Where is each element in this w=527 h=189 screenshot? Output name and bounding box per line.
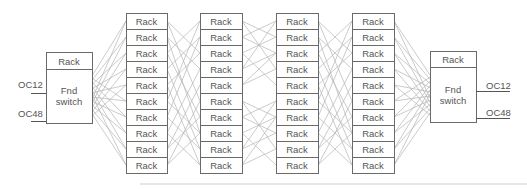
left-switch: RackFndswitchOC12OC48 — [18, 53, 93, 124]
link-rack-to-rack — [167, 69, 200, 149]
link-rack-to-right-switch — [394, 113, 430, 165]
link-left-switch-to-rack — [92, 69, 126, 89]
port-oc48: OC48 — [18, 108, 46, 122]
link-rack-to-rack — [318, 85, 352, 165]
rack-label: Rack — [136, 64, 158, 75]
rack-cell: Rack — [127, 126, 168, 142]
link-rack-to-rack — [318, 69, 352, 149]
rack-cell: Rack — [277, 158, 319, 174]
link-rack-to-right-switch — [394, 21, 430, 98]
link-rack-to-rack — [318, 53, 352, 117]
rack-cell: Rack — [277, 30, 319, 46]
rack-cell: Rack — [201, 46, 243, 62]
link-left-switch-to-rack — [92, 37, 126, 103]
rack-cell: Rack — [353, 62, 395, 78]
rack-label: Rack — [286, 32, 308, 43]
port-label: OC12 — [486, 80, 511, 91]
rack-label: Rack — [210, 160, 232, 171]
switch-name-line1: Fnd — [445, 84, 461, 95]
rack-label: Rack — [286, 80, 308, 91]
rack-cell: Rack — [353, 14, 395, 30]
link-left-switch-to-rack — [92, 85, 126, 93]
link-rack-to-rack — [242, 53, 276, 69]
rack-cell: Rack — [127, 158, 168, 174]
rack-cell: Rack — [353, 78, 395, 94]
rack-cell: Rack — [353, 94, 395, 110]
port-label: OC12 — [18, 79, 43, 90]
rack-cell: Rack — [353, 46, 395, 62]
rack-column-3: RackRackRackRackRackRackRackRackRackRack — [277, 14, 319, 174]
rack-label: Rack — [210, 96, 232, 107]
rack-label: Rack — [136, 96, 158, 107]
port-oc48: OC48 — [476, 107, 511, 119]
rack-label: Rack — [136, 144, 158, 155]
switch-header-rack-label: Rack — [58, 56, 80, 67]
rack-label: Rack — [362, 16, 384, 27]
rack-label: Rack — [210, 48, 232, 59]
rack-label: Rack — [210, 32, 232, 43]
rack-label: Rack — [136, 128, 158, 139]
link-left-switch-to-rack — [92, 114, 126, 165]
rack-cell: Rack — [201, 62, 243, 78]
rack-label: Rack — [210, 16, 232, 27]
port-oc12: OC12 — [476, 80, 511, 92]
link-rack-to-rack — [167, 85, 200, 149]
link-rack-to-rack — [242, 117, 276, 165]
link-rack-to-rack — [167, 85, 200, 165]
rack-cell: Rack — [353, 126, 395, 142]
rack-label: Rack — [210, 144, 232, 155]
rack-label: Rack — [286, 48, 308, 59]
link-left-switch-to-rack — [92, 21, 126, 76]
link-rack-to-rack — [318, 53, 352, 85]
link-rack-to-right-switch — [394, 21, 430, 75]
link-rack-to-rack — [167, 53, 200, 85]
link-rack-to-rack — [167, 53, 200, 117]
rack-cell: Rack — [201, 30, 243, 46]
rack-label: Rack — [362, 112, 384, 123]
link-rack-to-rack — [167, 101, 200, 165]
switch-name-line1: Fnd — [61, 85, 77, 96]
rack-label: Rack — [362, 144, 384, 155]
rack-cell: Rack — [201, 94, 243, 110]
rack-cell: Rack — [127, 110, 168, 126]
rack-cell: Rack — [353, 142, 395, 158]
link-rack-to-rack — [242, 69, 276, 85]
rack-label: Rack — [136, 112, 158, 123]
foundry-switches: RackFndswitchOC12OC48RackFndswitchOC12OC… — [18, 52, 511, 124]
rack-column-1: RackRackRackRackRackRackRackRackRackRack — [127, 14, 168, 174]
rack-label: Rack — [286, 64, 308, 75]
rack-label: Rack — [362, 128, 384, 139]
rack-label: Rack — [286, 160, 308, 171]
rack-cell: Rack — [277, 78, 319, 94]
link-rack-to-right-switch — [394, 53, 430, 83]
link-rack-to-rack — [242, 149, 276, 165]
rack-label: Rack — [362, 96, 384, 107]
rack-label: Rack — [286, 96, 308, 107]
rack-cell: Rack — [277, 126, 319, 142]
rack-label: Rack — [286, 16, 308, 27]
right-switch: RackFndswitchOC12OC48 — [431, 52, 511, 123]
link-rack-to-rack — [242, 133, 276, 165]
rack-cell: Rack — [127, 62, 168, 78]
link-rack-to-right-switch — [394, 37, 430, 79]
rack-label: Rack — [136, 160, 158, 171]
rack-cell: Rack — [127, 30, 168, 46]
link-left-switch-to-rack — [92, 69, 126, 112]
rack-label: Rack — [362, 48, 384, 59]
switch-name-line2: switch — [440, 95, 466, 106]
rack-label: Rack — [136, 16, 158, 27]
rack-label: Rack — [210, 112, 232, 123]
rack-cell: Rack — [201, 126, 243, 142]
rack-label: Rack — [136, 80, 158, 91]
rack-label: Rack — [286, 112, 308, 123]
rack-label: Rack — [210, 80, 232, 91]
switch-name-line2: switch — [56, 96, 82, 107]
rack-cell: Rack — [201, 110, 243, 126]
rack-column-2: RackRackRackRackRackRackRackRackRackRack — [201, 14, 243, 174]
port-label: OC48 — [18, 108, 43, 119]
rack-label: Rack — [210, 128, 232, 139]
link-left-switch-to-rack — [92, 110, 126, 149]
rack-cell: Rack — [277, 46, 319, 62]
rack-cell: Rack — [277, 142, 319, 158]
rack-cell: Rack — [277, 62, 319, 78]
